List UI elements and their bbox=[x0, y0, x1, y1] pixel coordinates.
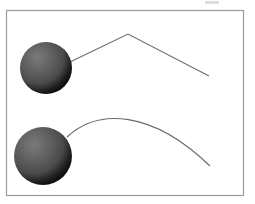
figure-canvas bbox=[0, 0, 255, 204]
physics-trajectory-figure bbox=[0, 0, 255, 204]
upper-sphere bbox=[20, 42, 72, 94]
top-smudge-artifact bbox=[205, 1, 219, 4]
lower-sphere bbox=[14, 127, 72, 185]
